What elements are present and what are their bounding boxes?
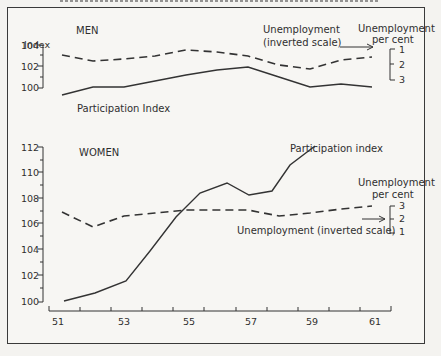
women-unemp-tick-2: 2 <box>399 213 405 224</box>
xtick-51: 51 <box>52 316 64 327</box>
women-ytick-102: 102 <box>21 270 39 281</box>
men-unemployment-label-line2: (inverted scale) <box>263 37 342 48</box>
men-unemp-tick-2: 2 <box>399 59 405 70</box>
women-ytick-108: 108 <box>21 193 39 204</box>
men-ytick-104: 104 <box>21 40 39 51</box>
xtick-59: 59 <box>306 316 318 327</box>
women-ytick-104: 104 <box>21 244 39 255</box>
women-y-axis: 112 110 108 106 104 102 100 <box>21 142 43 307</box>
women-title: WOMEN <box>79 147 119 158</box>
men-participation-line <box>62 67 372 95</box>
men-arrow-icon <box>340 44 373 50</box>
men-unemp-tick-3: 3 <box>399 74 405 85</box>
women-participation-label: Participation index <box>290 143 383 154</box>
women-ytick-106: 106 <box>21 218 39 229</box>
men-participation-label: Participation Index <box>77 103 170 114</box>
chart-canvas: MEN Index 104 102 100 Participation Inde… <box>0 0 441 356</box>
women-ytick-100: 100 <box>21 296 39 307</box>
women-unemployment-label: Unemployment (inverted scale) <box>237 225 396 236</box>
men-unemp-axis: 1 2 3 <box>390 44 405 85</box>
women-panel: WOMEN 112 110 108 106 104 102 100 <box>21 142 435 307</box>
men-ytick-100: 100 <box>21 82 39 93</box>
women-unemp-tick-3: 3 <box>399 200 405 211</box>
women-ytick-110: 110 <box>21 167 39 178</box>
xtick-61: 61 <box>369 316 381 327</box>
men-unemployment-line <box>62 50 372 69</box>
women-unemp-axis-title-line2: per cent <box>372 189 414 200</box>
men-unemployment-label-line1: Unemployment <box>263 24 340 35</box>
women-arrow-icon <box>362 216 385 222</box>
xtick-55: 55 <box>183 316 195 327</box>
x-axis: 51 53 55 57 59 61 <box>49 306 391 327</box>
xtick-57: 57 <box>245 316 257 327</box>
men-unemp-tick-1: 1 <box>399 44 405 55</box>
men-unemp-axis-title-line1: Unemployment <box>358 23 435 34</box>
xtick-53: 53 <box>118 316 130 327</box>
men-unemp-axis-title-line2: per cent <box>372 34 414 45</box>
women-unemp-tick-1: 1 <box>399 226 405 237</box>
men-ytick-102: 102 <box>21 61 39 72</box>
men-title: MEN <box>76 25 98 36</box>
men-panel: MEN Index 104 102 100 Participation Inde… <box>21 23 435 114</box>
women-unemployment-line <box>62 206 372 227</box>
women-unemp-axis-title-line1: Unemployment <box>358 177 435 188</box>
women-ytick-112: 112 <box>21 142 39 153</box>
